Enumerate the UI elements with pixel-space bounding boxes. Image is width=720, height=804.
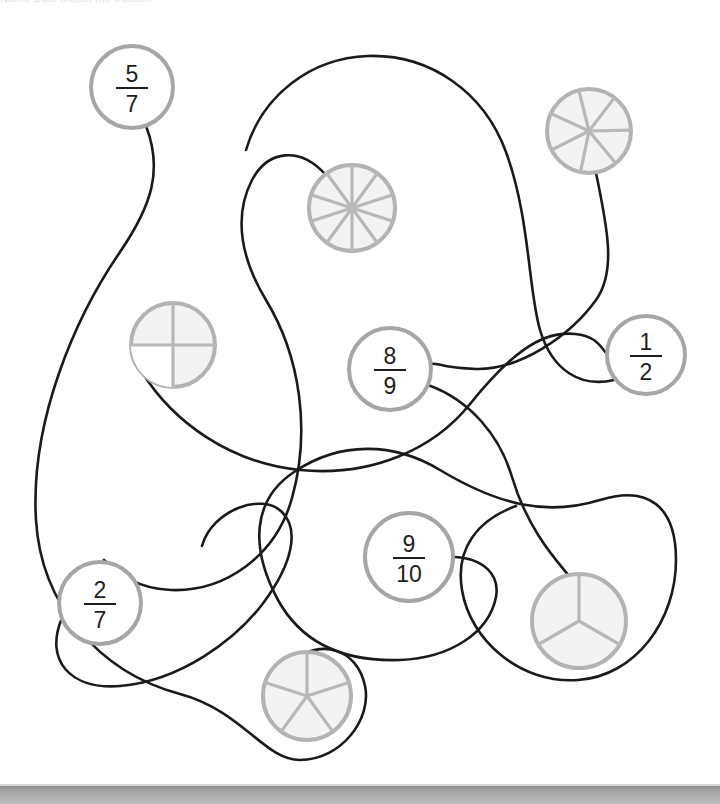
fraction-denominator: 2 xyxy=(640,359,653,385)
pie-node-7-sectors[interactable] xyxy=(547,89,631,173)
pie-node-5-sectors[interactable] xyxy=(263,652,351,740)
puzzle-canvas: 57128991027 xyxy=(0,0,720,804)
fraction-matching-worksheet: Name Date Match the fraction 57128991027 xyxy=(0,0,720,804)
fraction-numerator: 9 xyxy=(403,531,416,557)
fraction-node-f-2-7[interactable]: 27 xyxy=(59,562,141,644)
fraction-numerator: 2 xyxy=(94,577,107,603)
fraction-numerator: 1 xyxy=(640,329,653,355)
fraction-node-f-5-7[interactable]: 57 xyxy=(91,46,173,128)
pie-spoke xyxy=(589,130,631,131)
pie-node-3-sectors[interactable] xyxy=(532,574,626,668)
pie-node-4-sectors[interactable] xyxy=(131,303,215,387)
fraction-node-f-9-10[interactable]: 910 xyxy=(365,513,453,601)
pie-nodes-layer xyxy=(131,89,631,740)
fraction-denominator: 7 xyxy=(94,607,107,633)
fraction-node-f-1-2[interactable]: 12 xyxy=(607,316,685,394)
fraction-numerator: 8 xyxy=(384,343,397,369)
bottom-toolbar-strip xyxy=(0,786,720,804)
fraction-denominator: 10 xyxy=(396,561,422,587)
fraction-node-f-8-9[interactable]: 89 xyxy=(349,328,431,410)
fraction-numerator: 5 xyxy=(126,61,139,87)
fraction-denominator: 9 xyxy=(384,373,397,399)
pie-sector-white xyxy=(131,345,173,387)
pie-node-10-sectors[interactable] xyxy=(309,165,395,251)
fraction-denominator: 7 xyxy=(126,91,139,117)
